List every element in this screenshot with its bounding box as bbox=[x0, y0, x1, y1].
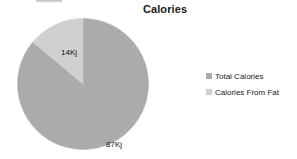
pie-chart-figure: Calories 87Kj 14Kj Total Calories Calori… bbox=[0, 0, 297, 159]
pie-plot-area: 87Kj 14Kj bbox=[17, 18, 149, 150]
pie-slice-label-calories-from-fat: 14Kj bbox=[61, 48, 77, 57]
legend-swatch-icon-calories-from-fat bbox=[206, 89, 212, 95]
legend-swatch-icon-total-calories bbox=[206, 73, 212, 79]
pie-slice-label-total-calories: 87Kj bbox=[106, 140, 122, 149]
chart-title: Calories bbox=[110, 3, 220, 16]
chart-legend: Total Calories Calories From Fat bbox=[206, 69, 296, 101]
legend-label-total-calories: Total Calories bbox=[215, 72, 263, 81]
pie-svg bbox=[17, 18, 149, 150]
cropped-edge-artifact bbox=[36, 0, 62, 3]
legend-item-total-calories[interactable]: Total Calories bbox=[206, 69, 296, 83]
legend-label-calories-from-fat: Calories From Fat bbox=[215, 88, 279, 97]
legend-item-calories-from-fat[interactable]: Calories From Fat bbox=[206, 85, 296, 99]
